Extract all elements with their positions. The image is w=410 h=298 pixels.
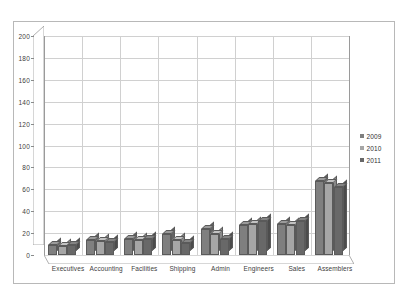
bar-front-face	[105, 242, 114, 255]
bar-sales-2009[interactable]	[277, 224, 286, 255]
bar-side-face	[229, 231, 233, 251]
bar-facilities-2011[interactable]	[143, 239, 152, 255]
bar-front-face	[143, 239, 152, 255]
bar-front-face	[181, 243, 190, 255]
x-tick-label-accounting: Accounting	[90, 265, 123, 272]
bar-group-accounting	[82, 36, 120, 255]
y-tick-label-120: 120	[19, 120, 30, 127]
bar-front-face	[201, 229, 210, 255]
bar-front-face	[286, 225, 295, 255]
bar-executives-2009[interactable]	[48, 245, 57, 255]
bar-executives-2011[interactable]	[67, 245, 76, 255]
bar-group-shipping	[158, 36, 196, 255]
x-tick-label-assemblers: Assemblers	[317, 265, 352, 272]
bar-executives-2010[interactable]	[58, 246, 67, 255]
bar-side-face	[152, 231, 156, 251]
x-axis-labels: ExecutivesAccountingFacilitiesShippingAd…	[44, 265, 359, 277]
y-tick-mark-0	[31, 255, 34, 256]
y-tick-mark-40	[31, 211, 34, 212]
legend-label-2011: 2011	[367, 157, 381, 164]
y-tick-mark-20	[31, 233, 34, 234]
y-tick-mark-80	[31, 167, 34, 168]
y-axis-labels: 020406080100120140160180200	[14, 36, 30, 255]
legend-item-2009[interactable]: 2009	[360, 130, 394, 142]
bar-shipping-2010[interactable]	[172, 240, 181, 255]
bar-side-face	[190, 235, 194, 251]
bar-front-face	[86, 240, 95, 255]
y-tick-mark-160	[31, 80, 34, 81]
bar-front-face	[58, 246, 67, 255]
x-tick-label-facilities: Facilities	[131, 265, 157, 272]
bar-group-engineers	[235, 36, 273, 255]
legend-item-2011[interactable]: 2011	[360, 154, 394, 166]
y-tick-label-60: 60	[22, 186, 30, 193]
bar-accounting-2011[interactable]	[105, 242, 114, 255]
y-tick-label-40: 40	[22, 208, 30, 215]
y-tick-mark-120	[31, 124, 34, 125]
bar-group-facilities	[120, 36, 158, 255]
bars-layer	[44, 36, 349, 255]
legend-item-2010[interactable]: 2010	[360, 142, 394, 154]
y-tick-mark-100	[31, 146, 34, 147]
y-tick-label-140: 140	[19, 98, 30, 105]
bar-side-face	[114, 234, 118, 251]
bar-admin-2011[interactable]	[220, 239, 229, 255]
x-tick-label-engineers: Engineers	[244, 265, 274, 272]
bar-engineers-2010[interactable]	[248, 224, 257, 255]
bar-engineers-2009[interactable]	[239, 225, 248, 255]
bar-front-face	[315, 181, 324, 255]
bar-group-admin	[197, 36, 235, 255]
bar-group-executives	[44, 36, 82, 255]
chart-legend: 200920102011	[360, 130, 394, 166]
y-tick-mark-140	[31, 102, 34, 103]
bar-facilities-2010[interactable]	[134, 240, 143, 255]
legend-swatch-icon-2010	[360, 146, 364, 150]
bar-accounting-2010[interactable]	[96, 241, 105, 255]
bar-front-face	[48, 245, 57, 255]
legend-swatch-icon-2011	[360, 158, 364, 162]
bar-admin-2010[interactable]	[210, 234, 219, 255]
x-tick-label-shipping: Shipping	[169, 265, 195, 272]
bar-side-face	[343, 180, 347, 251]
y-tick-mark-180	[31, 58, 34, 59]
bar-sales-2011[interactable]	[296, 221, 305, 255]
bar-accounting-2009[interactable]	[86, 240, 95, 255]
y-tick-mark-200	[31, 36, 34, 37]
bar-assemblers-2009[interactable]	[315, 181, 324, 255]
y-tick-label-200: 200	[19, 33, 30, 40]
legend-label-2009: 2009	[367, 133, 382, 140]
bar-shipping-2011[interactable]	[181, 243, 190, 255]
gridline-y-0	[44, 255, 349, 256]
bar-front-face	[172, 240, 181, 255]
bar-facilities-2009[interactable]	[124, 239, 133, 255]
x-tick-label-executives: Executives	[52, 265, 84, 272]
x-tick-label-sales: Sales	[288, 265, 305, 272]
bar-shipping-2009[interactable]	[162, 234, 171, 255]
x-tick-label-admin: Admin	[211, 265, 230, 272]
legend-swatch-icon-2009	[360, 134, 364, 138]
y-tick-label-160: 160	[19, 76, 30, 83]
bar-front-face	[296, 221, 305, 255]
bar-front-face	[334, 187, 343, 255]
bar-front-face	[162, 234, 171, 255]
bar-assemblers-2010[interactable]	[324, 183, 333, 255]
bar-front-face	[220, 239, 229, 255]
bar-admin-2009[interactable]	[201, 229, 210, 255]
bar-engineers-2011[interactable]	[258, 221, 267, 255]
bar-front-face	[258, 221, 267, 255]
y-tick-label-80: 80	[22, 164, 30, 171]
bar-assemblers-2011[interactable]	[334, 187, 343, 255]
legend-label-2010: 2010	[367, 145, 382, 152]
bar-front-face	[210, 234, 219, 255]
bar-front-face	[134, 240, 143, 255]
y-tick-label-180: 180	[19, 54, 30, 61]
y-tick-label-20: 20	[22, 230, 30, 237]
bar-sales-2010[interactable]	[286, 225, 295, 255]
bar-front-face	[124, 239, 133, 255]
bar-front-face	[324, 183, 333, 255]
gridline-x-8	[349, 36, 350, 255]
bar-group-assemblers	[311, 36, 349, 255]
bar-front-face	[96, 241, 105, 255]
bar-front-face	[67, 245, 76, 255]
y-tick-mark-60	[31, 189, 34, 190]
